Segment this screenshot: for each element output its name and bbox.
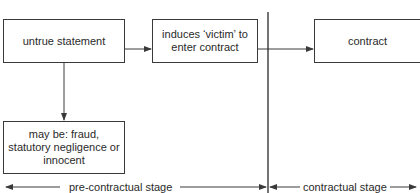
untrue-statement-box: untrue statement: [3, 19, 125, 63]
untrue-statement-label: untrue statement: [23, 35, 106, 48]
pre-contractual-stage-label: pre-contractual stage: [66, 181, 175, 193]
misrepresentation-types-label: may be: fraud, statutory negligence or i…: [8, 128, 120, 167]
misrepresentation-types-box: may be: fraud, statutory negligence or i…: [3, 121, 125, 174]
contract-label: contract: [348, 35, 387, 48]
induces-victim-label: induces ‘victim’ to enter contract: [161, 28, 249, 54]
contractual-stage-label: contractual stage: [300, 181, 390, 193]
contract-box: contract: [314, 19, 420, 63]
induces-victim-box: induces ‘victim’ to enter contract: [152, 19, 258, 63]
